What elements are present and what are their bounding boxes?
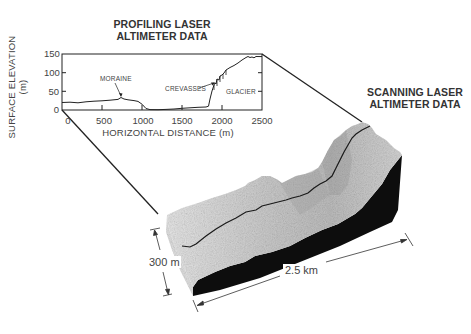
profiling-title-line1: PROFILING LASER: [82, 18, 242, 30]
profiling-title: PROFILING LASER ALTIMETER DATA: [82, 18, 242, 42]
y-tick-50: 50: [44, 86, 59, 97]
scanning-title-line2: ALTIMETER DATA: [360, 98, 470, 110]
scanning-title-line1: SCANNING LASER: [360, 86, 470, 98]
profiling-title-line2: ALTIMETER DATA: [82, 30, 242, 42]
height-dim-bottom-tick: [163, 294, 172, 296]
x-tick-1500: 1500: [167, 115, 197, 126]
x-tick-1000: 1000: [128, 115, 158, 126]
x-axis-label: HORIZONTAL DISTANCE (m): [78, 127, 258, 138]
x-tick-0: 0: [60, 115, 76, 126]
x-tick-2500: 2500: [247, 115, 277, 126]
annotation-moraine: MORAINE: [100, 75, 132, 82]
length-dim-left-tick: [193, 300, 198, 312]
x-tick-500: 500: [92, 115, 116, 126]
figure-canvas: [0, 0, 471, 334]
height-dimension-label: 300 m: [148, 256, 181, 268]
scanning-title: SCANNING LASER ALTIMETER DATA: [360, 86, 470, 110]
y-tick-150: 150: [44, 48, 59, 59]
elevation-profile-line: [62, 57, 262, 110]
y-tick-100: 100: [44, 67, 59, 78]
y-tick-0: 0: [44, 104, 59, 115]
annotation-glacier: GLACIER: [226, 88, 256, 95]
x-tick-2000: 2000: [207, 115, 237, 126]
length-dimension-label: 2.5 km: [283, 264, 320, 276]
profile-chart: [62, 54, 262, 110]
y-axis-label: SURFACE ELEVATION (m): [6, 32, 28, 142]
height-dim-top-tick: [150, 228, 160, 230]
annotation-crevasses: CREVASSES: [165, 85, 206, 92]
moraine-arrowhead: [119, 93, 123, 97]
connector-line-right: [262, 54, 362, 122]
